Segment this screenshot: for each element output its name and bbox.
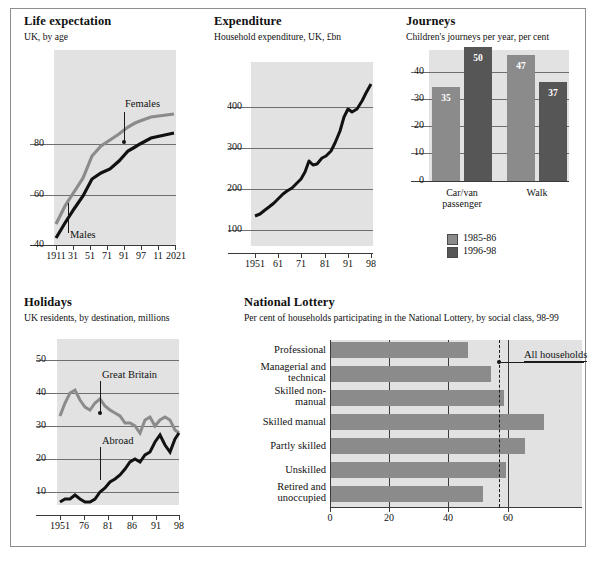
expenditure-xlabel-4: 91 [337,258,359,269]
life-annotation-males: Males [70,229,96,240]
panel-life-expectation: Life expectation UK, by age 80 60 40 Fem… [24,14,204,264]
lottery-category-skilled-manual: Skilled manual [244,416,326,427]
infographic-page: Life expectation UK, by age 80 60 40 Fem… [0,0,596,563]
journeys-title: Journeys [406,14,582,29]
journeys-ytick-0: 0 [406,174,424,185]
lottery-reference-label: All households [524,349,587,362]
holidays-xlabel-4: 91 [145,520,167,531]
lottery-category-unskilled: Unskilled [244,464,326,475]
holidays-plot: 50 40 30 20 10 Great Britain Abroad 1951… [24,329,224,539]
lottery-category-retired: Retired and unoccupied [244,481,326,503]
panel-holidays: Holidays UK residents, by destination, m… [24,295,224,545]
journeys-plot: 40 30 20 10 0 35 50 47 37 Car/van passen… [406,48,582,264]
lottery-axis-x [330,507,582,508]
journeys-legend-swatch-1996 [447,247,458,258]
lottery-reference-leader [499,362,584,363]
lottery-bar-partly-skilled [331,438,525,454]
journeys-subtitle: Children's journeys per year, per cent [406,31,582,42]
journeys-ytick-10: 10 [406,146,424,157]
panel-national-lottery: National Lottery Per cent of households … [244,295,584,545]
expenditure-xlabel-0: 1951 [241,258,269,269]
life-leader-females [124,112,125,142]
lottery-title: National Lottery [244,295,584,310]
journeys-legend-label-1996: 1996-98 [463,245,496,256]
journeys-category-walk: Walk [504,187,570,198]
life-plot: 80 60 40 Females Males 1911 31 51 71 [24,46,204,261]
expenditure-subtitle: Household expenditure, UK, £bn [214,31,394,42]
expenditure-xlabel-2: 71 [290,258,312,269]
lottery-bar-skilled-nonmanual [331,390,504,406]
lottery-xlabel-40: 40 [438,512,458,523]
panel-journeys: Journeys Children's journeys per year, p… [406,14,582,264]
lottery-bar-managerial [331,366,491,382]
expenditure-series-svg [214,48,394,270]
expenditure-xlabel-3: 81 [314,258,336,269]
lottery-xlabel-20: 20 [379,512,399,523]
lottery-category-skilled-nonmanual: Skilled non-manual [244,385,326,407]
holidays-annotation-abroad: Abroad [102,435,134,446]
holidays-title: Holidays [24,295,224,310]
journeys-barlabel-carvan-1996: 50 [464,53,492,63]
expenditure-xlabel-1: 61 [267,258,289,269]
journeys-ytick-20: 20 [406,119,424,130]
life-annotation-females: Females [125,98,160,109]
lottery-subtitle: Per cent of households participating in … [244,312,584,323]
holidays-series-great-britain [60,390,179,433]
holidays-xlabel-2: 81 [97,520,119,531]
life-xlabel-7: 2021 [162,250,190,261]
lottery-plot: Professional Managerial and technical Sk… [244,335,584,535]
lottery-bar-skilled-manual [331,414,544,430]
journeys-axis-x [411,181,569,182]
lottery-xlabel-0: 0 [320,512,340,523]
holidays-xlabel-5: 98 [168,520,190,531]
life-subtitle: UK, by age [24,31,204,42]
journeys-ytick-30: 30 [406,92,424,103]
holidays-subtitle: UK residents, by destination, millions [24,312,224,323]
lottery-category-professional: Professional [244,344,326,355]
life-series-males [56,133,174,238]
holidays-leader-abroad [100,447,101,480]
journeys-legend-swatch-1985 [447,234,458,245]
lottery-reference-dashed-line [499,340,500,507]
holidays-annotation-great-britain: Great Britain [102,369,157,380]
journeys-barlabel-carvan-1985: 35 [432,93,460,103]
holidays-leader-great-britain [100,381,101,414]
life-marker-females [122,140,126,144]
journeys-ytick-40: 40 [406,65,424,76]
life-title: Life expectation [24,14,204,29]
life-series-svg [24,46,204,261]
journeys-bar-walk-1985 [507,55,535,181]
journeys-barlabel-walk-1996: 37 [539,88,567,98]
lottery-bar-unskilled [331,462,506,478]
journeys-barlabel-walk-1985: 47 [507,61,535,71]
lottery-bar-professional [331,342,468,358]
life-leader-males [68,203,69,233]
panel-expenditure: Expenditure Household expenditure, UK, £… [214,14,394,274]
journeys-legend-label-1985: 1985-86 [463,232,496,243]
journeys-category-carvan: Car/van passenger [428,187,496,209]
holidays-xlabel-0: 1951 [46,520,74,531]
expenditure-title: Expenditure [214,14,394,29]
journeys-bar-carvan-1996 [464,47,492,181]
holidays-series-svg [24,329,224,539]
holidays-xlabel-1: 76 [73,520,95,531]
lottery-bar-retired [331,486,483,502]
holidays-marker-great-britain [98,411,102,415]
holidays-xlabel-3: 86 [121,520,143,531]
expenditure-xlabel-5: 98 [360,258,382,269]
lottery-xlabel-60: 60 [498,512,518,523]
lottery-category-partly-skilled: Partly skilled [244,440,326,451]
expenditure-series-line [255,84,371,216]
expenditure-plot: 400 300 200 100 1951 61 71 81 91 98 [214,48,394,270]
lottery-category-managerial: Managerial and technical [244,361,326,383]
